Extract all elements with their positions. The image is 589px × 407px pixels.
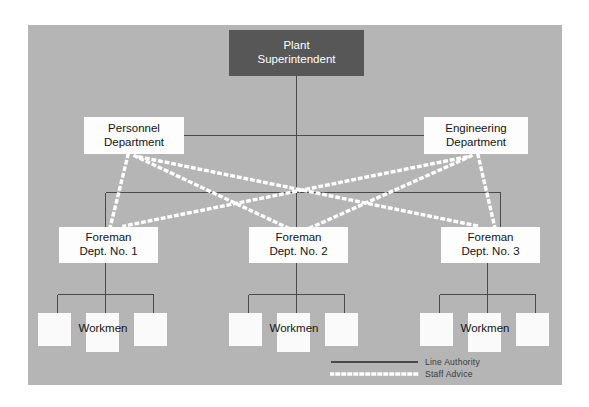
- foreman-2-line1: Foreman: [275, 231, 321, 245]
- foreman-3-line2: Dept. No. 3: [461, 245, 519, 259]
- node-foreman-dept-3[interactable]: Foreman Dept. No. 3: [441, 227, 540, 263]
- workmen-group-2-label: Workmen: [253, 322, 335, 334]
- engineering-department-line2: Department: [446, 136, 506, 150]
- workmen-group-1-label: Workmen: [62, 322, 144, 334]
- node-plant-superintendent[interactable]: Plant Superintendent: [229, 30, 364, 76]
- personnel-department-line2: Department: [104, 136, 164, 150]
- personnel-department-line1: Personnel: [108, 122, 160, 136]
- foreman-1-line1: Foreman: [85, 231, 131, 245]
- engineering-department-line1: Engineering: [445, 122, 506, 136]
- node-foreman-dept-2[interactable]: Foreman Dept. No. 2: [249, 227, 348, 263]
- legend-label-staff-advice: Staff Advice: [425, 369, 473, 379]
- plant-superintendent-line1: Plant: [283, 39, 309, 53]
- foreman-2-line2: Dept. No. 2: [269, 245, 327, 259]
- node-foreman-dept-1[interactable]: Foreman Dept. No. 1: [59, 227, 158, 263]
- legend-swatches: [330, 356, 420, 382]
- legend-label-line-authority: Line Authority: [425, 357, 480, 367]
- workmen-group-3-label: Workmen: [444, 322, 526, 334]
- node-personnel-department[interactable]: Personnel Department: [84, 117, 184, 154]
- foreman-1-line2: Dept. No. 1: [79, 245, 137, 259]
- foreman-3-line1: Foreman: [467, 231, 513, 245]
- node-engineering-department[interactable]: Engineering Department: [424, 117, 528, 154]
- plant-superintendent-line2: Superintendent: [257, 53, 335, 67]
- org-chart-figure: Plant Superintendent Personnel Departmen…: [0, 0, 589, 407]
